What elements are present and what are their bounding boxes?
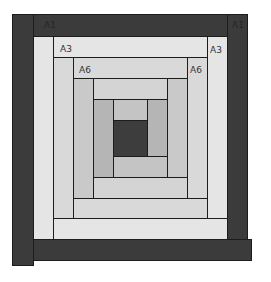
log-cabin-quilt-diagram: A1 A1 A3 A3 A6 A6: [0, 0, 271, 282]
a3-top-strip: [53, 36, 208, 58]
a6-bottom-strip: [73, 198, 208, 219]
outer-right-strip: [227, 14, 248, 240]
label-a1-top-left: A1: [44, 20, 56, 30]
a3-right-strip: [207, 36, 228, 219]
label-a6-top-left: A6: [79, 65, 91, 75]
a3-bottom-strip: [53, 218, 228, 240]
ring3-right-strip: [167, 78, 188, 178]
label-a1-top-right: A1: [232, 20, 244, 30]
label-a6-top-right: A6: [190, 65, 202, 75]
label-a3-top-right: A3: [210, 45, 222, 55]
center-square: [113, 120, 148, 157]
ring4-bottom-strip: [113, 156, 168, 178]
label-a3-top-left: A3: [60, 44, 72, 54]
a6-left-strip: [53, 57, 74, 219]
a3-left-strip: [33, 36, 54, 240]
ring3-bottom-strip: [93, 177, 188, 199]
ring4-top-strip: [113, 99, 148, 121]
outer-left-strip: [12, 14, 34, 266]
outer-top-strip: [33, 14, 228, 37]
outer-bottom-strip: [33, 239, 252, 261]
ring4-left-strip: [93, 99, 114, 178]
ring3-left-strip: [73, 78, 94, 199]
ring4-right-strip: [147, 99, 168, 157]
a6-right-strip: [187, 57, 208, 199]
ring3-top-strip: [93, 78, 168, 100]
